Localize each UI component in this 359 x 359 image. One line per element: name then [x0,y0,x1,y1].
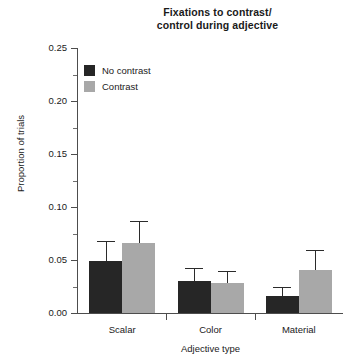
y-minor-tick-mark [73,75,77,76]
bar [299,270,332,313]
x-tick-label: Color [166,325,256,335]
chart-legend: No contrastContrast [84,62,151,94]
y-tick-mark [71,207,77,208]
bar [178,281,211,313]
legend-swatch-icon [84,65,95,76]
legend-label: Contrast [102,81,138,92]
error-bar-stem [227,271,228,284]
y-tick-mark [71,48,77,49]
legend-item: Contrast [84,78,151,94]
y-tick-label: 0.15 [23,149,67,159]
y-minor-tick-mark [73,287,77,288]
y-tick-mark [71,154,77,155]
y-tick-label: 0.25 [23,43,67,53]
legend-swatch-icon [84,81,95,92]
error-bar-cap [97,241,115,242]
error-bar-cap [273,287,291,288]
chart-title: Fixations to contrast/ control during ad… [110,6,325,32]
y-tick-label: 0.00 [23,308,67,318]
x-tick-label: Scalar [77,325,167,335]
y-minor-tick-mark [73,234,77,235]
y-minor-tick-mark [73,128,77,129]
x-tick-label: Material [254,325,344,335]
error-bar-stem [139,221,140,243]
error-bar-cap [130,221,148,222]
y-axis-title: Proportion of trials [15,89,26,219]
x-tick-mark [255,314,256,320]
x-axis-line [77,313,343,314]
error-bar-stem [106,241,107,261]
bar [266,296,299,313]
error-bar-cap [306,250,324,251]
y-tick-label: 0.20 [23,96,67,106]
y-tick-label: 0.05 [23,255,67,265]
bar [89,261,122,313]
x-axis-title: Adjective type [78,343,343,354]
error-bar-cap [218,271,236,272]
legend-label: No contrast [102,65,151,76]
chart-title-line-2: control during adjective [110,19,325,32]
y-tick-label: 0.10 [23,202,67,212]
bar [122,243,155,313]
bar-chart-figure: Fixations to contrast/ control during ad… [0,0,359,359]
x-tick-mark [166,314,167,320]
error-bar-stem [282,287,283,297]
y-minor-tick-mark [73,181,77,182]
y-tick-mark [71,101,77,102]
chart-title-line-1: Fixations to contrast/ [110,6,325,19]
error-bar-stem [194,268,195,281]
bar [211,283,244,313]
error-bar-stem [315,250,316,269]
y-tick-mark [71,313,77,314]
error-bar-cap [185,268,203,269]
legend-item: No contrast [84,62,151,78]
y-tick-mark [71,260,77,261]
